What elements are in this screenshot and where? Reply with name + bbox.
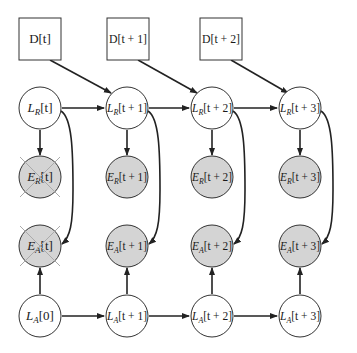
svg-text:LR[t + 1]: LR[t + 1]: [106, 100, 147, 117]
data-box-label: D[t]: [29, 31, 51, 46]
svg-text:ER[t + 1]: ER[t + 1]: [106, 169, 147, 186]
data-box-D_t: D[t]: [19, 18, 61, 60]
svg-text:LA[t + 3]: LA[t + 3]: [279, 308, 320, 325]
node-LR_t2: LR[t + 2]: [191, 87, 233, 129]
node-EA_t3: EA[t + 3]: [279, 225, 321, 267]
data-box-label: D[t + 2]: [202, 31, 240, 46]
node-EA_t2: EA[t + 2]: [191, 225, 233, 267]
node-LA_t1: LA[t + 1]: [106, 295, 148, 337]
node-LR_t: LR[t]: [19, 87, 61, 129]
svg-text:LA[t + 2]: LA[t + 2]: [191, 308, 232, 325]
node-ER_t1: ER[t + 1]: [106, 156, 148, 198]
edge-LR_t1-EA_t1: [148, 111, 160, 244]
svg-text:LR[t + 3]: LR[t + 3]: [279, 100, 320, 117]
svg-text:LR[t + 2]: LR[t + 2]: [191, 100, 232, 117]
node-LR_t1: LR[t + 1]: [106, 87, 148, 129]
node-EA_t1: EA[t + 1]: [106, 225, 148, 267]
node-EA_t: EA[t]: [19, 225, 61, 267]
node-LA_0: LA[0]: [19, 295, 61, 337]
node-LA_t3: LA[t + 3]: [279, 295, 321, 337]
node-LA_t2: LA[t + 2]: [191, 295, 233, 337]
data-box-label: D[t + 1]: [109, 31, 147, 46]
edge-D_t2-LR_t3: [231, 60, 288, 93]
svg-text:ER[t + 2]: ER[t + 2]: [191, 169, 232, 186]
svg-text:LA[t + 1]: LA[t + 1]: [106, 308, 147, 325]
edge-D_t1-LR_t2: [138, 60, 197, 93]
data-box-D_t2: D[t + 2]: [200, 18, 242, 60]
node-ER_t: ER[t]: [19, 156, 61, 198]
edge-LR_t2-EA_t2: [233, 111, 245, 244]
svg-text:EA[t + 1]: EA[t + 1]: [106, 238, 147, 255]
edge-LR_t-EA_t: [61, 111, 73, 244]
svg-text:LR[t]: LR[t]: [26, 100, 52, 117]
svg-text:LA[0]: LA[0]: [25, 308, 54, 325]
svg-text:ER[t + 3]: ER[t + 3]: [279, 169, 320, 186]
node-ER_t3: ER[t + 3]: [279, 156, 321, 198]
edge-LR_t3-EA_t3: [321, 111, 333, 244]
dbn-diagram: D[t] D[t + 1] D[t + 2] LR[t] LR[t + 1] L…: [0, 0, 357, 353]
data-box-D_t1: D[t + 1]: [107, 18, 149, 60]
node-LR_t3: LR[t + 3]: [279, 87, 321, 129]
node-ER_t2: ER[t + 2]: [191, 156, 233, 198]
edge-D_t-LR_t1: [50, 60, 111, 93]
svg-text:EA[t + 3]: EA[t + 3]: [279, 238, 320, 255]
svg-text:EA[t + 2]: EA[t + 2]: [191, 238, 232, 255]
